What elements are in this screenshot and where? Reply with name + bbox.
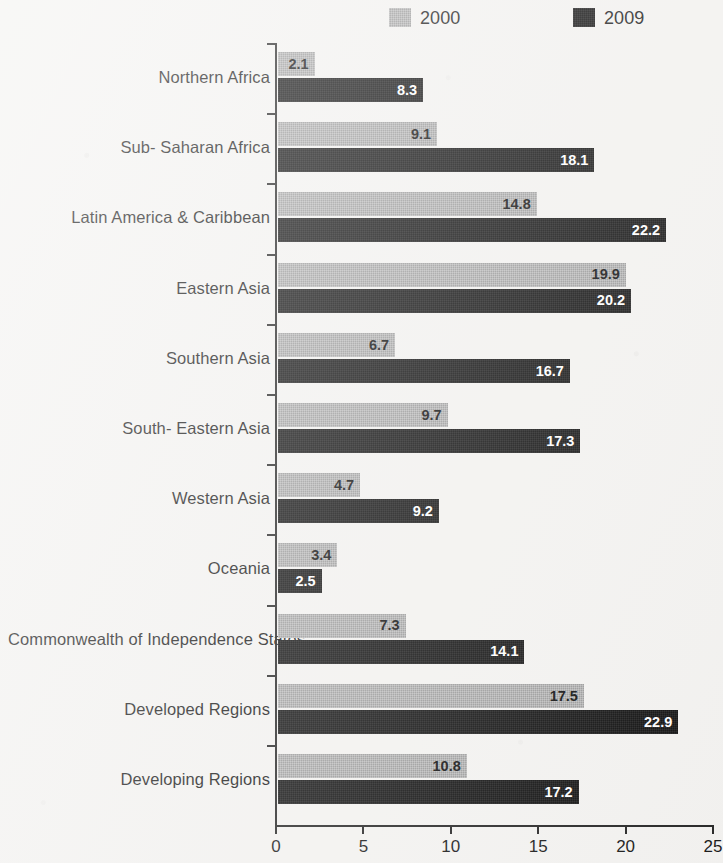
category-label: Latin America & Caribbean: [8, 209, 270, 226]
category-tick: [267, 745, 276, 747]
category-label: Eastern Asia: [8, 280, 270, 297]
category-label: Developed Regions: [8, 701, 270, 718]
category-label: Southern Asia: [8, 350, 270, 367]
bar-2009: 17.2: [278, 780, 579, 804]
bar-value-label: 22.9: [644, 715, 678, 730]
bar-value-label: 20.2: [597, 293, 631, 308]
value-tick: [362, 825, 364, 834]
bar-2000: 9.1: [278, 122, 437, 146]
category-tick: [267, 324, 276, 326]
value-tick: [712, 825, 714, 834]
category-tick: [267, 605, 276, 607]
bar-chart-plot: Northern Africa2.18.3Sub- Saharan Africa…: [0, 0, 723, 863]
bar-2009: 22.9: [278, 710, 678, 734]
category-tick: [267, 254, 276, 256]
bar-value-label: 22.2: [632, 223, 666, 238]
value-tick-label: 20: [616, 838, 635, 855]
category-tick: [267, 183, 276, 185]
bar-2000: 6.7: [278, 333, 395, 357]
value-tick: [275, 825, 277, 834]
bar-2000: 4.7: [278, 473, 360, 497]
category-label: Western Asia: [8, 490, 270, 507]
category-label: Commonwealth of Independence States: [8, 631, 270, 648]
bar-2000: 10.8: [278, 754, 467, 778]
bar-2000: 3.4: [278, 543, 337, 567]
bar-2009: 9.2: [278, 499, 439, 523]
bar-2000: 2.1: [278, 52, 315, 76]
category-tick: [267, 534, 276, 536]
category-label: South- Eastern Asia: [8, 420, 270, 437]
value-tick-label: 5: [359, 838, 368, 855]
value-tick-label: 15: [529, 838, 548, 855]
category-tick: [267, 43, 276, 45]
bar-2000: 14.8: [278, 192, 537, 216]
value-tick: [537, 825, 539, 834]
bar-2009: 16.7: [278, 359, 570, 383]
bar-value-label: 4.7: [334, 478, 360, 493]
bar-2009: 22.2: [278, 218, 666, 242]
category-tick: [267, 113, 276, 115]
bar-value-label: 17.3: [546, 434, 580, 449]
bar-2009: 18.1: [278, 148, 594, 172]
bar-value-label: 2.1: [289, 57, 315, 72]
category-tick: [267, 675, 276, 677]
bar-2000: 7.3: [278, 614, 406, 638]
bar-2009: 2.5: [278, 569, 322, 593]
category-tick: [267, 394, 276, 396]
bar-2009: 20.2: [278, 289, 631, 313]
value-tick-label: 0: [271, 838, 280, 855]
bar-2000: 19.9: [278, 263, 626, 287]
bar-value-label: 18.1: [560, 153, 594, 168]
bar-2000: 17.5: [278, 684, 584, 708]
value-tick: [450, 825, 452, 834]
value-tick: [625, 825, 627, 834]
value-tick-label: 25: [704, 838, 723, 855]
value-tick-label: 10: [441, 838, 460, 855]
bar-2009: 17.3: [278, 429, 580, 453]
bar-value-label: 14.1: [490, 644, 524, 659]
bar-value-label: 6.7: [369, 338, 395, 353]
bar-value-label: 16.7: [536, 364, 570, 379]
bar-value-label: 19.9: [592, 267, 626, 282]
bar-value-label: 7.3: [379, 618, 405, 633]
category-label: Developing Regions: [8, 771, 270, 788]
bar-value-label: 9.2: [413, 504, 439, 519]
bar-value-label: 17.2: [544, 785, 578, 800]
category-label: Northern Africa: [8, 69, 270, 86]
category-axis-line: [275, 43, 277, 825]
bar-value-label: 3.4: [311, 548, 337, 563]
category-label: Oceania: [8, 560, 270, 577]
value-axis-line: [276, 825, 713, 827]
bar-2000: 9.7: [278, 403, 448, 427]
bar-value-label: 17.5: [550, 689, 584, 704]
bar-value-label: 8.3: [397, 83, 423, 98]
bar-2009: 14.1: [278, 640, 524, 664]
bar-value-label: 10.8: [433, 759, 467, 774]
bar-value-label: 9.1: [411, 127, 437, 142]
category-tick: [267, 464, 276, 466]
bar-value-label: 9.7: [421, 408, 447, 423]
bar-2009: 8.3: [278, 78, 423, 102]
bar-value-label: 14.8: [502, 197, 536, 212]
bar-value-label: 2.5: [296, 574, 322, 589]
category-label: Sub- Saharan Africa: [8, 139, 270, 156]
